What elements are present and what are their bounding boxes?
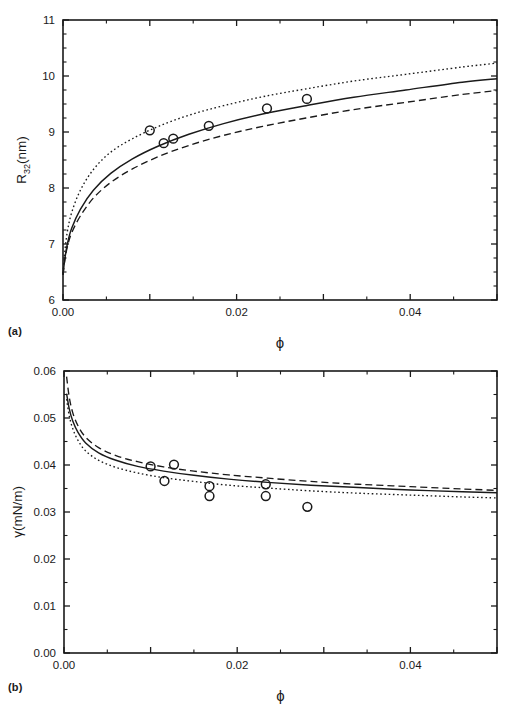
y-tick-label: 0.03: [34, 506, 56, 518]
y-tick-label: 0.00: [34, 647, 56, 659]
y-axis-title: γ(mN/m): [10, 486, 25, 538]
data-point-marker: [205, 492, 214, 501]
x-axis-title: ϕ: [276, 334, 284, 351]
x-tick-label: 0.04: [399, 659, 422, 671]
curve-solid: [63, 79, 497, 275]
panel-a-plot: 0.000.020.0467891011ϕR32(nm): [0, 0, 513, 355]
data-point-marker: [261, 480, 270, 489]
y-tick-label: 0.06: [34, 365, 56, 377]
y-tick-label: 9: [49, 126, 55, 138]
data-point-marker: [303, 502, 312, 511]
svg-text:R32(nm): R32(nm): [14, 136, 32, 184]
panel-a: 0.000.020.0467891011ϕR32(nm): [0, 0, 513, 355]
x-tick-label: 0.00: [53, 659, 75, 671]
data-point-marker: [263, 104, 272, 113]
curve-solid: [67, 394, 497, 493]
y-tick-label: 6: [49, 294, 55, 306]
figure-container: 0.000.020.0467891011ϕR32(nm) (a) 0.000.0…: [0, 0, 513, 710]
svg-text:γ(mN/m): γ(mN/m): [10, 486, 25, 538]
y-tick-label: 10: [42, 70, 55, 82]
y-tick-label: 0.02: [34, 553, 56, 565]
panel-b-plot: 0.000.020.040.000.010.020.030.040.050.06…: [0, 355, 513, 710]
y-tick-label: 7: [49, 238, 55, 250]
panel-b: 0.000.020.040.000.010.020.030.040.050.06…: [0, 355, 513, 710]
panel-a-label: (a): [8, 325, 22, 337]
data-point-marker: [145, 126, 154, 135]
y-tick-label: 8: [49, 182, 55, 194]
x-tick-label: 0.00: [52, 306, 74, 318]
data-point-marker: [303, 95, 312, 104]
x-axis-title: ϕ: [276, 687, 284, 704]
panel-b-label: (b): [8, 681, 23, 693]
axis-frame: [63, 20, 497, 300]
axis-frame: [64, 371, 497, 653]
x-tick-label: 0.02: [225, 306, 247, 318]
y-tick-label: 0.05: [34, 412, 56, 424]
x-tick-label: 0.02: [226, 659, 248, 671]
y-tick-label: 0.04: [34, 459, 57, 471]
curve-dashed: [67, 377, 497, 491]
curve-dashed: [63, 91, 497, 275]
y-axis-title: R32(nm): [14, 136, 32, 184]
y-tick-label: 0.01: [34, 600, 56, 612]
data-point-marker: [261, 492, 270, 501]
curve-dotted: [63, 63, 497, 273]
y-tick-label: 11: [43, 14, 55, 26]
x-tick-label: 0.04: [399, 306, 422, 318]
